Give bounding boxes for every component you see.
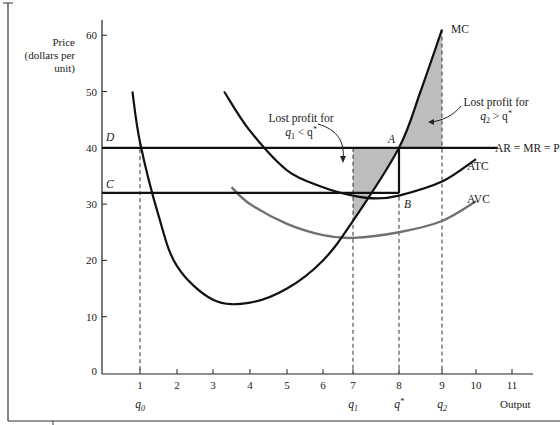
y-tick-label: 60: [86, 29, 98, 41]
point-b-label: B: [404, 198, 411, 210]
x-axis: 1234567891011: [102, 369, 533, 391]
x-tick-label: 7: [350, 379, 356, 391]
arrow-lost-profit-q1: [318, 124, 343, 160]
quantity-guide-lines: [140, 30, 442, 373]
x-tick-label: 6: [320, 379, 326, 391]
point-d-label: D: [105, 131, 115, 143]
lost-profit-q1-line1: Lost profit for: [268, 112, 333, 125]
y-tick-label: 40: [86, 142, 98, 154]
mc-curve: [132, 30, 442, 305]
point-a-label: A: [387, 133, 396, 145]
y-tick-label: 10: [86, 311, 98, 323]
atc-label: ATC: [467, 160, 489, 172]
y-tick-label: 50: [86, 86, 98, 98]
lost-profit-q2-line1: Lost profit for: [463, 96, 528, 109]
x-tick-label: 1: [137, 379, 143, 391]
y-tick-label: 0: [92, 365, 98, 377]
lost-profit-q1-line2: q1 < q*: [285, 125, 317, 141]
price-line-label: AR = MR = P: [495, 142, 560, 154]
y-axis: 0102030405060: [86, 20, 107, 377]
x-tick-label: 3: [210, 379, 216, 391]
y-axis-title-line2: (dollars per: [25, 49, 76, 62]
y-axis-title-line3: unit): [54, 62, 75, 75]
qstar-label: q*: [394, 397, 404, 411]
y-tick-label: 30: [86, 198, 98, 210]
lost-profit-q2-line2: q2 > q*: [480, 109, 512, 125]
x-tick-label: 5: [284, 379, 290, 391]
cost-curves-chart: 0102030405060 1234567891011 Price (dolla…: [0, 0, 560, 425]
q1-label: q1: [348, 398, 358, 413]
point-c-label: C: [106, 178, 114, 190]
mc-label: MC: [451, 23, 469, 35]
y-tick-label: 20: [86, 254, 98, 266]
x-tick-label: 10: [471, 379, 483, 391]
q2-label: q2: [437, 398, 447, 413]
x-tick-label: 9: [439, 379, 445, 391]
q0-label: q0: [135, 398, 145, 413]
x-tick-label: 4: [247, 379, 253, 391]
x-tick-label: 11: [507, 379, 518, 391]
y-axis-title-line1: Price: [52, 36, 75, 48]
x-axis-title: Output: [500, 398, 531, 410]
arrowhead-q1-icon: [340, 156, 346, 163]
x-tick-label: 8: [396, 379, 402, 391]
x-tick-label: 2: [174, 379, 180, 391]
avc-label: AVC: [467, 193, 490, 205]
